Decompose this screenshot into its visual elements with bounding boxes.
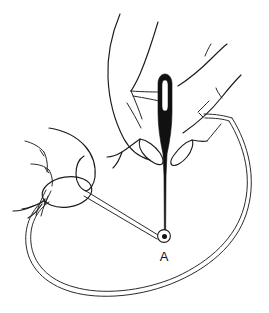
- needle-eye-slot: [162, 80, 168, 111]
- cord-right-upper-segment: [204, 114, 232, 118]
- cord-taut-segment-inner: [84, 196, 157, 239]
- right-hand-knuckle-tick-1: [199, 113, 203, 117]
- eyelet-inner-hole: [162, 234, 167, 239]
- right-hand-middle-finger-crease: [205, 44, 211, 56]
- right-hand-web-stroke-4: [127, 103, 141, 128]
- right-hand-knuckle-tick-2: [198, 101, 209, 112]
- cord-taut-segment-outer: [86, 191, 158, 235]
- right-hand-index-finger-outer: [108, 14, 150, 160]
- right-hand-thumb-outer: [183, 75, 241, 133]
- right-hand-pinch-pad-right: [171, 140, 193, 166]
- right-hand-web-stroke-3: [131, 91, 142, 119]
- cord-right-upper-segment-inner: [205, 118, 229, 121]
- left-hand-thumb-pad: [40, 173, 94, 210]
- eyelet-at-point-a: [158, 230, 171, 243]
- line-drawing: A: [0, 0, 269, 313]
- right-hand-pinch-pad-left: [139, 139, 163, 165]
- elastic-cord-loop: [26, 114, 252, 296]
- right-hand-holding-needle: [107, 14, 241, 168]
- figure-canvas: A: [0, 0, 269, 313]
- right-hand-lower-right-crease: [207, 124, 221, 141]
- left-hand-index-finger: [76, 156, 86, 191]
- right-hand-lower-right-contour: [192, 140, 207, 141]
- right-hand-index-finger-inner: [131, 22, 158, 91]
- right-hand-thumb-nail-crease: [216, 88, 222, 98]
- right-hand-lower-left-contour: [107, 139, 140, 157]
- bodkin-needle: [158, 74, 172, 236]
- right-hand-middle-finger: [178, 44, 227, 86]
- point-a-label: A: [160, 249, 169, 264]
- left-hand-knuckle-crease-1: [25, 141, 44, 152]
- left-hand-holding-cord: [13, 128, 95, 218]
